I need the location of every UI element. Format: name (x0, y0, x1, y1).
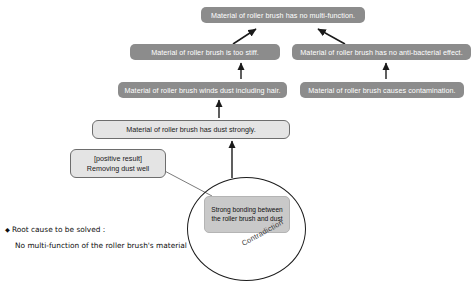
box-winds-dust[interactable]: Material of roller brush winds dust incl… (118, 82, 287, 98)
positive-result-tag: [positive result] (94, 154, 142, 164)
box-causes-contamination[interactable]: Material of roller brush causes contamin… (300, 82, 464, 98)
arrow-antibacterial-to-top (318, 29, 345, 44)
arrow-stiff-to-top (233, 29, 256, 44)
positive-result-text: Removing dust well (87, 164, 149, 174)
box-too-stiff[interactable]: Material of roller brush is too stiff. (130, 44, 280, 60)
box-has-dust-strongly[interactable]: Material of roller brush has dust strong… (92, 120, 290, 139)
root-cause-block: ◆Root cause to be solved : No multi-func… (5, 226, 235, 251)
box-no-antibacterial-effect[interactable]: Material of roller brush has no anti-bac… (292, 44, 471, 60)
root-cause-title-text: Root cause to be solved : (12, 225, 105, 234)
box-positive-result[interactable]: [positive result] Removing dust well (70, 149, 166, 178)
box-top-problem[interactable]: Material of roller brush has no multi-fu… (201, 7, 365, 23)
root-cause-detail: No multi-function of the roller brush's … (15, 242, 235, 251)
root-cause-title: ◆Root cause to be solved : (5, 226, 235, 235)
diamond-bullet-icon: ◆ (5, 226, 10, 234)
